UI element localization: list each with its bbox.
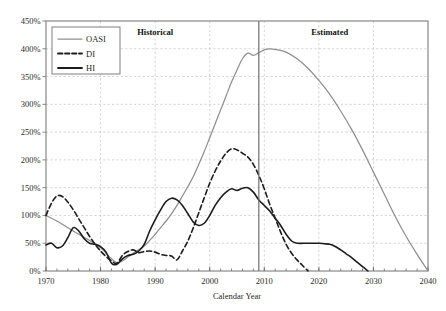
legend-label-oasi: OASI — [86, 34, 106, 44]
y-axis-tick-label: 0% — [29, 266, 40, 276]
series-line-hi — [46, 187, 368, 271]
y-axis-tick-label: 350% — [21, 72, 41, 82]
y-axis-tick-label: 250% — [21, 127, 41, 137]
x-axis-tick-label: 1990 — [147, 276, 164, 286]
phase-label: Historical — [137, 27, 174, 37]
x-axis-tick-label: 2030 — [365, 276, 382, 286]
trust-fund-ratio-chart: 0%50%100%150%200%250%300%350%400%450%197… — [0, 0, 446, 311]
x-axis-title: Calendar Year — [213, 291, 261, 301]
x-axis-tick-label: 2010 — [256, 276, 273, 286]
x-axis-tick-label: 2000 — [201, 276, 218, 286]
y-axis-tick-label: 50% — [25, 238, 41, 248]
chart-page: 0%50%100%150%200%250%300%350%400%450%197… — [0, 0, 446, 311]
legend-label-hi: HI — [86, 63, 95, 73]
legend-label-di: DI — [86, 49, 95, 59]
y-axis-tick-label: 400% — [21, 44, 41, 54]
x-axis-tick-label: 2040 — [420, 276, 437, 286]
x-axis-tick-label: 1970 — [38, 276, 55, 286]
x-axis-tick-label: 2020 — [310, 276, 327, 286]
y-axis-tick-label: 150% — [21, 183, 41, 193]
x-axis-tick-label: 1980 — [92, 276, 109, 286]
y-axis-tick-label: 100% — [21, 210, 41, 220]
y-axis-tick-label: 200% — [21, 155, 41, 165]
y-axis-tick-label: 300% — [21, 99, 41, 109]
phase-label: Estimated — [311, 27, 348, 37]
y-axis-tick-label: 450% — [21, 16, 41, 26]
